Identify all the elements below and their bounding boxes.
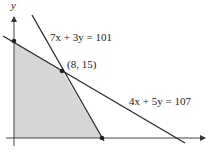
y-axis-label: y	[10, 0, 16, 11]
intersection-point-label: (8, 15)	[67, 58, 97, 71]
feasible-region	[14, 41, 102, 138]
equation-label-line1: 7x + 3y = 101	[50, 31, 112, 43]
equation-label-line2: 4x + 5y = 107	[129, 95, 191, 107]
vertex-y-intercept	[12, 39, 17, 44]
lp-diagram: y 7x + 3y = 101 4x + 5y = 107 (8, 15)	[0, 0, 212, 153]
vertex-intersection	[60, 69, 65, 74]
vertex-x-intercept	[100, 136, 105, 141]
